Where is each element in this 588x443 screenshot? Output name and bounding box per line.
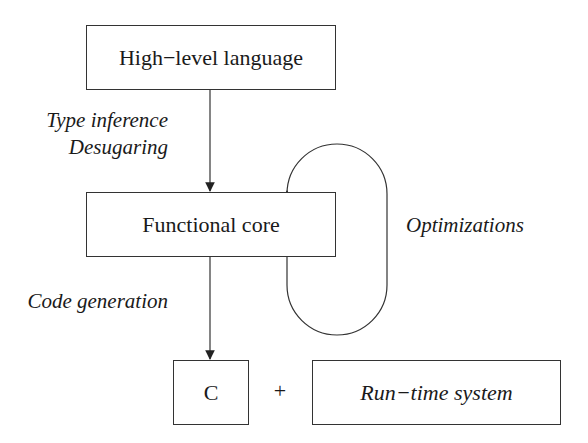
node-functional-core: Functional core [86,192,336,257]
node-c: C [173,360,249,425]
node-label: High−level language [119,45,303,71]
plus-sign: + [270,378,290,404]
edge-label-optimizations: Optimizations [406,212,524,238]
node-runtime-system: Run−time system [312,360,561,425]
node-label: Run−time system [360,380,512,406]
edge-label-desugaring: Desugaring [69,134,168,160]
node-label: C [204,380,219,406]
edge-label-type-inference: Type inference [46,107,168,133]
node-label: Functional core [142,212,279,238]
edge-label-code-generation: Code generation [27,288,168,314]
node-high-level-language: High−level language [86,25,336,90]
